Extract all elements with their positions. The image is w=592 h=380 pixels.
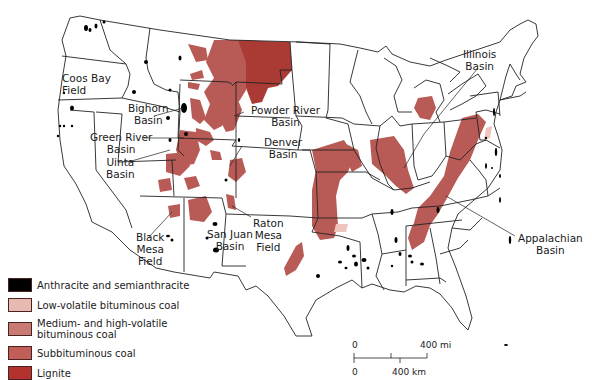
swatch-subbituminous [8, 346, 32, 360]
label-text: San Juan Basin [207, 228, 253, 252]
label-powder-river-basin: Powder River Basin [251, 104, 320, 128]
legend-item-subbituminous: Subbituminous coal [8, 346, 189, 360]
michigan-basin-region [414, 96, 436, 120]
legend-item-anthracite: Anthracite and semianthracite [8, 278, 189, 292]
label-raton-mesa-field: Raton Mesa Field [253, 217, 284, 253]
legend-item-medium-high-volatile: Medium- and high-volatile bituminous coa… [8, 318, 189, 340]
texas-lignite [284, 242, 304, 276]
swatch-lignite [8, 366, 32, 380]
label-uinta-basin: Uinta Basin [106, 156, 135, 180]
label-denver-basin: Denver Basin [264, 136, 302, 160]
scale-bar: 0 400 mi 0 400 km [350, 340, 490, 380]
label-text: Denver Basin [264, 136, 302, 160]
label-text: Coos Bay Field [62, 72, 111, 96]
scale-line [350, 352, 490, 368]
san-juan-region [188, 196, 212, 222]
scale-400-mi: 400 mi [420, 340, 451, 350]
uinta-region [166, 152, 190, 176]
label-coos-bay-field: Coos Bay Field [62, 72, 111, 96]
map-legend: Anthracite and semianthracite Low-volati… [8, 278, 189, 380]
label-text: Green River Basin [90, 131, 152, 155]
legend-label: Subbituminous coal [37, 348, 136, 359]
label-bighorn-basin: Bighorn Basin [128, 102, 169, 126]
swatch-medium-high-volatile [8, 322, 32, 336]
legend-label: Lignite [37, 368, 71, 379]
label-san-juan-basin: San Juan Basin [207, 228, 253, 252]
label-text: Black Mesa Field [136, 231, 164, 267]
montana-west-patches [188, 44, 208, 90]
label-green-river-basin: Green River Basin [90, 131, 152, 155]
wyoming-patches [196, 128, 222, 160]
legend-label: Low-volatile bituminous coal [37, 300, 179, 311]
legend-item-low-volatile: Low-volatile bituminous coal [8, 298, 189, 312]
label-text: Raton Mesa Field [253, 217, 284, 253]
label-text: Uinta Basin [106, 156, 135, 180]
swatch-anthracite [8, 278, 32, 292]
label-text: Appalachian Basin [518, 232, 583, 256]
bighorn-region [190, 98, 206, 124]
legend-item-lignite: Lignite [8, 366, 189, 380]
swatch-low-volatile [8, 298, 32, 312]
scale-400-km: 400 km [392, 367, 426, 377]
label-appalachian-basin: Appalachian Basin [518, 232, 583, 256]
denver-region [228, 158, 246, 182]
scale-zero-km: 0 [352, 367, 358, 377]
label-black-mesa-field: Black Mesa Field [136, 231, 164, 267]
label-text: Bighorn Basin [128, 102, 169, 126]
legend-label: Medium- and high-volatile bituminous coa… [37, 318, 187, 340]
scale-zero-mi: 0 [352, 340, 358, 350]
label-text: Illinois Basin [463, 48, 496, 72]
colorado-west-patches [158, 176, 200, 192]
legend-label: Anthracite and semianthracite [37, 280, 189, 291]
label-illinois-basin: Illinois Basin [463, 48, 496, 72]
black-mesa-region [168, 204, 180, 218]
label-text: Powder River Basin [251, 104, 320, 128]
